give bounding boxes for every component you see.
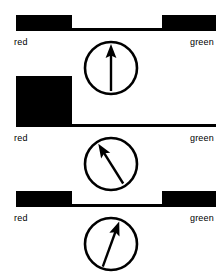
arrow-group [94,141,128,187]
green-bar [162,15,216,29]
axis-label-green: green [190,133,214,143]
arrow-shaft [103,151,123,183]
red-bar [16,76,72,126]
arrow-shaft [103,229,117,267]
red-bar [16,15,72,29]
arrow-head [109,220,124,237]
red-bar [16,191,72,205]
axis-label-red: red [14,213,28,223]
baseline [16,28,216,31]
green-bar [162,191,216,205]
vector-dial-svg [82,215,140,273]
baseline [16,204,216,207]
axis-label-red: red [14,37,28,47]
panel-red-dominant-up-left: red green [0,93,216,188]
axis-label-green: green [190,213,214,223]
baseline [16,124,216,127]
vector-dial [82,135,140,193]
arrow-group [106,44,117,91]
vector-dial-svg [82,39,140,97]
vector-dial-svg [82,135,140,193]
axis-label-red: red [14,133,28,143]
figure-root: red green red green [0,0,216,280]
axis-label-green: green [190,37,214,47]
vector-dial [82,39,140,97]
arrow-group [98,220,125,269]
panel-balanced-up-right: red green [0,186,216,280]
vector-dial [82,215,140,273]
